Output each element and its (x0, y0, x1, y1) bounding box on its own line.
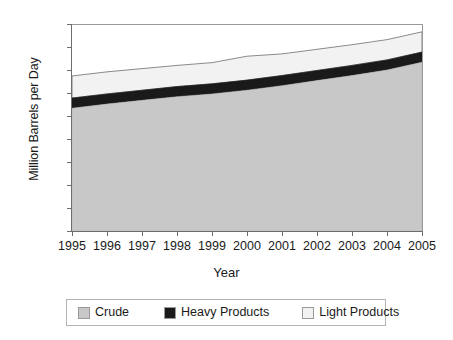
plot-area (72, 24, 422, 231)
chart-legend: CrudeHeavy ProductsLight Products (66, 299, 386, 326)
y-axis-line (71, 24, 72, 232)
x-tick-2003 (352, 231, 353, 236)
legend-label-heavy-products: Heavy Products (181, 306, 269, 319)
x-tick-label-2005: 2005 (399, 240, 445, 253)
x-tick-2000 (247, 231, 248, 236)
stacked-area-chart-figure: Million Barrels per Day 0510152025303540… (0, 0, 453, 340)
legend-item-heavy-products[interactable]: Heavy Products (164, 300, 269, 325)
x-tick-2005 (422, 231, 423, 236)
y-tick-30 (67, 93, 72, 94)
legend-item-crude[interactable]: Crude (78, 300, 129, 325)
y-tick-35 (67, 70, 72, 71)
light-products-swatch-icon (302, 307, 314, 319)
y-tick-15 (67, 162, 72, 163)
heavy-products-swatch-icon (164, 307, 176, 319)
x-tick-1995 (72, 231, 73, 236)
legend-item-light-products[interactable]: Light Products (302, 300, 399, 325)
x-tick-2004 (387, 231, 388, 236)
y-tick-20 (67, 139, 72, 140)
legend-label-crude: Crude (95, 306, 129, 319)
x-tick-1996 (107, 231, 108, 236)
y-tick-25 (67, 116, 72, 117)
plot-border-top (71, 24, 423, 25)
x-tick-1999 (212, 231, 213, 236)
y-tick-45 (67, 24, 72, 25)
y-tick-40 (67, 47, 72, 48)
x-tick-2002 (317, 231, 318, 236)
legend-label-light-products: Light Products (319, 306, 399, 319)
y-tick-10 (67, 185, 72, 186)
y-tick-5 (67, 208, 72, 209)
crude-swatch-icon (78, 307, 90, 319)
x-tick-1997 (142, 231, 143, 236)
y-axis-title: Million Barrels per Day (27, 19, 41, 219)
area-series-group (72, 24, 422, 231)
x-tick-2001 (282, 231, 283, 236)
x-tick-1998 (177, 231, 178, 236)
plot-border-right (422, 24, 423, 232)
x-axis-title: Year (0, 265, 453, 280)
